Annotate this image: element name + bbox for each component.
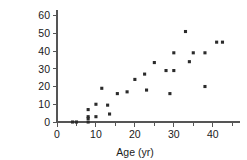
y-tick-label-30: 30 [38, 63, 50, 75]
data-point [215, 41, 218, 44]
data-point [164, 69, 167, 72]
data-point [116, 92, 119, 95]
y-tick-label-0: 0 [44, 116, 50, 128]
data-point [172, 69, 175, 72]
y-tick-label-50: 50 [38, 27, 50, 39]
data-point [106, 104, 109, 107]
x-axis-title: Age (yr) [116, 146, 153, 158]
y-tick-label-60: 60 [38, 9, 50, 21]
data-point [94, 103, 97, 106]
data-point [87, 120, 90, 123]
data-point [188, 60, 191, 63]
data-point [87, 115, 90, 118]
data-point [71, 120, 74, 123]
data-point [75, 120, 78, 123]
data-point [203, 85, 206, 88]
data-point [126, 90, 129, 93]
data-point [172, 51, 175, 54]
y-tick-label-10: 10 [38, 98, 50, 110]
data-point [153, 61, 156, 64]
data-point [87, 108, 90, 111]
x-tick-label-0: 0 [54, 128, 60, 140]
x-axis: 010203040 [54, 122, 240, 140]
data-point [203, 51, 206, 54]
x-tick-label-40: 40 [207, 128, 219, 140]
data-point [100, 87, 103, 90]
x-tick-label-10: 10 [90, 128, 102, 140]
data-point [133, 78, 136, 81]
chart-canvas: 0102030405060 010203040 Age (yr) Cross-S… [0, 0, 247, 160]
y-axis: 0102030405060 [38, 9, 57, 127]
data-points [71, 30, 224, 124]
data-point [168, 92, 171, 95]
y-tick-label-40: 40 [38, 45, 50, 57]
data-point [184, 30, 187, 33]
y-tick-label-20: 20 [38, 80, 50, 92]
data-point [143, 73, 146, 76]
data-point [192, 51, 195, 54]
data-point [221, 41, 224, 44]
data-point [108, 112, 111, 115]
data-point [94, 115, 97, 118]
x-tick-label-20: 20 [129, 128, 141, 140]
x-tick-label-30: 30 [168, 128, 180, 140]
scatter-chart: 0102030405060 010203040 Age (yr) Cross-S… [0, 0, 247, 160]
data-point [145, 89, 148, 92]
